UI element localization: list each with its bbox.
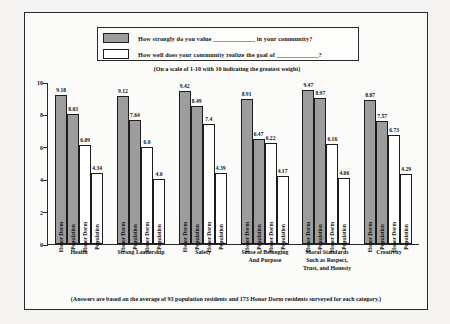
bar[interactable]: Honor Dorm8.87 [364, 100, 376, 244]
category-label-line: Moral Standards [297, 249, 357, 257]
bar-groups: Honor Dorm9.18Population8.03Honor Dorm6.… [48, 83, 419, 244]
scanned-page: How strongly do you value _____________ … [0, 0, 450, 324]
bar-respondent-label: Population [256, 224, 262, 250]
legend-swatch-realize [103, 49, 129, 59]
bar[interactable]: Honor Dorm9.18 [55, 95, 67, 244]
bar[interactable]: Honor Dorm6.16 [326, 144, 338, 244]
bar-respondent-label: Honor Dorm [144, 222, 150, 252]
bar[interactable]: Population7.57 [376, 121, 388, 244]
bar-respondent-label: Population [132, 224, 138, 250]
bar-value-label: 8.97 [315, 90, 325, 96]
bar-value-label: 8.87 [365, 92, 375, 98]
category-labels: HealthStrong LeadershipSafetySense of Be… [48, 249, 420, 273]
legend-item-value: How strongly do you value _____________ … [103, 31, 353, 45]
category-label: Strong Leadership [110, 249, 172, 273]
category-label-line: Safety [173, 249, 233, 257]
bar[interactable]: Population8.03 [67, 114, 79, 244]
bar-value-label: 9.12 [118, 88, 128, 94]
bar-value-label: 4.0 [155, 171, 162, 177]
y-tick-mark [43, 212, 48, 213]
y-tick-label: 2 [32, 210, 43, 216]
bar-value-label: 4.06 [339, 170, 349, 176]
bar-group: Honor Dorm8.91Population6.47Honor Dorm6.… [234, 83, 296, 244]
bar-slot: Population4.0 [153, 83, 165, 244]
bar-respondent-label: Population [70, 224, 76, 250]
bar-group: Honor Dorm8.87Population7.57Honor Dorm6.… [357, 83, 419, 244]
bar-slot: Honor Dorm9.18 [55, 83, 67, 244]
bar-respondent-label: Population [341, 224, 347, 250]
bar-value-label: 4.29 [401, 166, 411, 172]
plot-area: 1086420 Honor Dorm9.18Population8.03Hono… [47, 83, 419, 245]
x-axis-line [47, 244, 419, 245]
bar-slot: Honor Dorm6.09 [79, 83, 91, 244]
bar-respondent-label: Honor Dorm [367, 222, 373, 252]
bar[interactable]: Population4.17 [277, 176, 289, 244]
bar[interactable]: Honor Dorm6.0 [141, 147, 153, 244]
bar[interactable]: Population6.47 [253, 139, 265, 244]
bar[interactable]: Population7.64 [129, 120, 141, 244]
scale-note: (On a scale of 1-10 with 10 indicating t… [25, 66, 429, 72]
bar-value-label: 4.17 [278, 168, 288, 174]
bar-respondent-label: Honor Dorm [182, 222, 188, 252]
bar[interactable]: Population4.06 [338, 178, 350, 244]
bar[interactable]: Population8.97 [314, 98, 326, 243]
bar-slot: Honor Dorm9.12 [117, 83, 129, 244]
bar-value-label: 6.16 [327, 136, 337, 142]
bar-respondent-label: Population [94, 224, 100, 250]
bar-value-label: 6.09 [80, 137, 90, 143]
y-tick-label: 8 [32, 112, 43, 118]
bar[interactable]: Population4.39 [215, 173, 227, 244]
chart-legend: How strongly do you value _____________ … [97, 27, 359, 61]
bar[interactable]: Population4.29 [400, 174, 412, 243]
bar-slot: Honor Dorm7.4 [203, 83, 215, 244]
bar[interactable]: Honor Dorm9.42 [179, 91, 191, 244]
bar[interactable]: Honor Dorm9.47 [302, 90, 314, 243]
footer-note: (Answers are based on the average of 93 … [25, 296, 427, 302]
bar-slot: Honor Dorm9.42 [179, 83, 191, 244]
y-tick-label: 6 [32, 145, 43, 151]
bar[interactable]: Population4.34 [91, 173, 103, 243]
category-label: Moral StandardsSuch as Respect,Trust, an… [296, 249, 358, 273]
y-tick-mark [43, 180, 48, 181]
bar-respondent-label: Population [194, 224, 200, 250]
bar-slot: Population4.29 [400, 83, 412, 244]
legend-swatch-value [103, 33, 129, 43]
bar-value-label: 9.18 [56, 87, 66, 93]
bar-value-label: 4.39 [216, 165, 226, 171]
bar-slot: Population8.03 [67, 83, 79, 244]
bar-value-label: 6.47 [254, 131, 264, 137]
bar-value-label: 7.4 [205, 116, 212, 122]
bar-respondent-label: Honor Dorm [244, 222, 250, 252]
bar-value-label: 8.03 [68, 106, 78, 112]
bar-respondent-label: Honor Dorm [58, 222, 64, 252]
bar-respondent-label: Population [403, 224, 409, 250]
bar[interactable]: Honor Dorm9.12 [117, 96, 129, 244]
bar-slot: Honor Dorm9.47 [302, 83, 314, 244]
bar-value-label: 7.64 [130, 112, 140, 118]
bar[interactable]: Honor Dorm8.91 [241, 99, 253, 243]
bar-slot: Honor Dorm6.16 [326, 83, 338, 244]
bar[interactable]: Population4.0 [153, 179, 165, 244]
bar[interactable]: Honor Dorm6.73 [388, 135, 400, 244]
bar-respondent-label: Honor Dorm [206, 222, 212, 252]
bar-group: Honor Dorm9.12Population7.64Honor Dorm6.… [110, 83, 172, 244]
bar-respondent-label: Population [379, 224, 385, 250]
category-label-line: Trust, and Honesty [297, 265, 357, 273]
category-label: Health [48, 249, 110, 273]
bar-value-label: 8.91 [242, 91, 252, 97]
chart-frame: How strongly do you value _____________ … [24, 12, 428, 310]
bar-value-label: 9.47 [303, 82, 313, 88]
bar[interactable]: Honor Dorm7.4 [203, 124, 215, 244]
bar-slot: Honor Dorm8.91 [241, 83, 253, 244]
bar[interactable]: Population8.49 [191, 106, 203, 244]
bar-slot: Population7.57 [376, 83, 388, 244]
category-label-line: Such as Respect, [297, 257, 357, 265]
bar-group: Honor Dorm9.42Population8.49Honor Dorm7.… [172, 83, 234, 244]
category-label-line: And Purpose [235, 257, 295, 265]
category-label: Creativity [358, 249, 420, 273]
legend-item-realize: How well does your community realize the… [103, 47, 353, 61]
legend-label-realize: How well does your community realize the… [138, 51, 322, 58]
bar[interactable]: Honor Dorm6.09 [79, 145, 91, 244]
y-tick-mark [43, 147, 48, 148]
bar[interactable]: Honor Dorm6.22 [265, 143, 277, 244]
